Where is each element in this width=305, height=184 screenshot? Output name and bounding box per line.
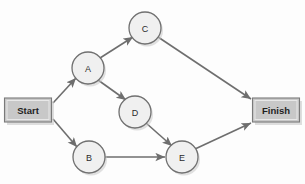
network-diagram-canvas: StartABCDEFinish [0, 0, 305, 184]
node-shape [253, 98, 300, 122]
node-shape [166, 141, 198, 173]
node-finish[interactable]: Finish [253, 98, 303, 125]
node-e[interactable]: E [166, 141, 200, 176]
edge-a-d [98, 80, 126, 100]
edge-start-a [53, 78, 76, 103]
edge-a-c [100, 37, 133, 58]
node-shape [72, 52, 104, 84]
edge-start-b [53, 119, 77, 147]
node-shape [73, 141, 105, 173]
node-b[interactable]: B [73, 141, 107, 176]
edge-d-e [146, 123, 172, 146]
edge-e-finish [195, 123, 251, 149]
node-shape [129, 12, 161, 44]
node-start[interactable]: Start [5, 98, 55, 125]
node-d[interactable]: D [119, 96, 153, 131]
node-c[interactable]: C [129, 12, 163, 47]
node-shape [119, 96, 151, 128]
nodes-layer: StartABCDEFinish [5, 12, 303, 176]
network-diagram-svg: StartABCDEFinish [0, 0, 305, 184]
node-shape [5, 98, 52, 122]
edge-c-finish [158, 37, 251, 99]
